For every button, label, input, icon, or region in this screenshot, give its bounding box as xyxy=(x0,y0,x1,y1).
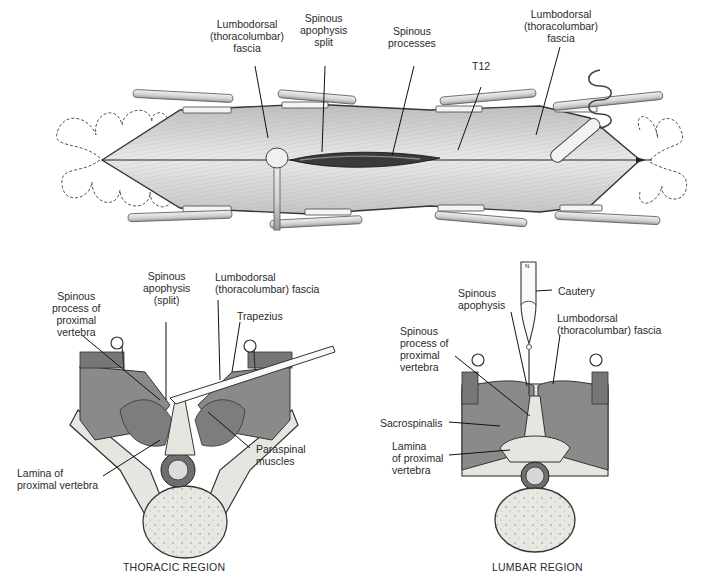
label-trapezius: Trapezius xyxy=(237,310,283,322)
label-paraspinal-muscles: Paraspinal muscles xyxy=(256,443,306,467)
top-panel-incision xyxy=(57,70,687,230)
label-fascia-thoracic: Lumbodorsal (thoracolumbar) fascia xyxy=(215,271,319,295)
label-fascia-right: Lumbodorsal (thoracolumbar) fascia xyxy=(524,8,598,44)
label-spinous-process-proximal-lumbar: Spinous process of proximal vertebra xyxy=(400,325,448,373)
anatomy-illustration: N xyxy=(0,0,713,582)
caption-lumbar-region: LUMBAR REGION xyxy=(492,561,583,573)
label-fascia-lumbar: Lumbodorsal (thoracolumbar) fascia xyxy=(557,312,661,336)
label-lamina-lumbar: Lamina of proximal vertebra xyxy=(392,440,443,476)
label-spinous-apophysis-split-thoracic: Spinous apophysis (split) xyxy=(143,270,190,306)
label-spinous-apophysis-split: Spinous apophysis split xyxy=(300,12,347,48)
label-sacrospinalis: Sacrospinalis xyxy=(380,417,442,429)
caption-thoracic-region: THORACIC REGION xyxy=(123,561,225,573)
svg-text:N: N xyxy=(525,263,529,269)
label-cautery: Cautery xyxy=(558,285,595,297)
cautery-pen: N xyxy=(521,262,536,396)
label-t12: T12 xyxy=(472,60,490,72)
label-spinous-process-proximal-thoracic: Spinous process of proximal vertebra xyxy=(52,290,100,338)
label-spinous-apophysis-lumbar: Spinous apophysis xyxy=(458,287,505,311)
label-lamina-thoracic: Lamina of proximal vertebra xyxy=(17,467,98,491)
label-spinous-processes: Spinous processes xyxy=(388,25,436,49)
label-fascia-left: Lumbodorsal (thoracolumbar) fascia xyxy=(210,18,284,54)
